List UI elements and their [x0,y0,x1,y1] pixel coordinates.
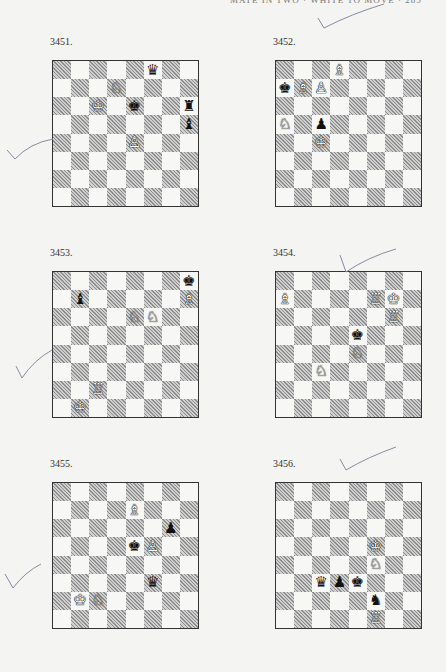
square-b2: ♔ [71,592,89,610]
square-g8 [162,272,180,290]
square-h4 [403,345,421,363]
square-g4 [385,134,403,152]
handwritten-check-icon [14,348,54,383]
square-c4 [89,556,107,574]
square-b4 [71,556,89,574]
square-h1 [180,399,198,417]
square-f7 [144,79,162,97]
square-d4 [107,134,125,152]
white-bishop-icon: ♗ [296,81,309,96]
square-e8 [349,483,367,501]
square-b5 [294,537,312,555]
square-a4 [276,556,294,574]
square-b5 [71,326,89,344]
chess-board: ♗♚♗♙♘♟♔ [275,60,422,207]
square-d1 [330,188,348,206]
square-h7: ♗ [180,290,198,308]
square-c7 [89,79,107,97]
square-b2 [71,381,89,399]
square-e1 [126,399,144,417]
square-g6 [162,97,180,115]
square-a4 [276,134,294,152]
square-f8 [367,483,385,501]
chess-board: ♛♘♔♚♜♝♙ [52,60,199,207]
square-b6 [294,519,312,537]
square-b3 [71,574,89,592]
square-a1 [276,188,294,206]
white-king-icon: ♔ [315,135,328,150]
square-e2 [126,170,144,188]
square-h7 [403,79,421,97]
white-bishop-icon: ♗ [278,292,291,307]
square-h1 [180,188,198,206]
square-c3 [312,152,330,170]
square-d2 [330,592,348,610]
square-f6 [144,519,162,537]
square-g7 [385,501,403,519]
chess-board: ♔♘♛♟♚♞♖ [275,482,422,629]
square-c5 [312,537,330,555]
square-a4 [53,556,71,574]
square-g4 [385,345,403,363]
square-d4 [330,345,348,363]
square-d7 [330,501,348,519]
square-b5 [294,326,312,344]
square-f1 [144,610,162,628]
square-b1 [71,188,89,206]
square-e7 [349,501,367,519]
square-f3 [367,152,385,170]
square-b2 [294,592,312,610]
square-f1 [144,399,162,417]
square-a7: ♗ [276,290,294,308]
square-d4 [107,345,125,363]
square-h8 [403,61,421,79]
square-a5: ♘ [276,115,294,133]
square-h7 [403,501,421,519]
square-f3 [367,574,385,592]
square-g1 [385,610,403,628]
square-h4 [180,345,198,363]
square-b1 [71,610,89,628]
square-c1 [312,188,330,206]
square-a6 [53,97,71,115]
square-h7 [180,501,198,519]
square-g5 [162,326,180,344]
square-a5 [53,537,71,555]
square-h6 [403,97,421,115]
square-b8 [71,483,89,501]
square-a5 [276,537,294,555]
square-c6 [312,97,330,115]
square-f2 [144,592,162,610]
puzzle-number: 3452. [273,36,296,47]
square-a8 [276,483,294,501]
square-g4 [162,345,180,363]
chess-board: ♗♖♔♖♚♘♘ [275,271,422,418]
square-h8 [180,61,198,79]
square-d5 [330,115,348,133]
square-h2 [403,381,421,399]
square-c8 [89,61,107,79]
square-b8 [294,61,312,79]
square-h5 [403,115,421,133]
square-c1 [89,399,107,417]
square-a3 [276,152,294,170]
chess-board: ♗♟♚♙♛♔♘ [52,482,199,629]
square-h3 [180,152,198,170]
square-g2 [385,170,403,188]
square-d2 [107,592,125,610]
square-b8 [71,61,89,79]
square-g1 [385,188,403,206]
square-d1 [107,399,125,417]
square-d6 [107,97,125,115]
square-h8: ♚ [180,272,198,290]
square-g1 [385,399,403,417]
square-a8 [53,483,71,501]
square-f6: ♘ [144,308,162,326]
black-rook-icon: ♜ [182,99,195,114]
square-f2 [367,170,385,188]
square-a2 [276,592,294,610]
square-c3: ♘ [312,363,330,381]
square-f3: ♛ [144,574,162,592]
square-c1 [312,610,330,628]
square-g5 [162,537,180,555]
